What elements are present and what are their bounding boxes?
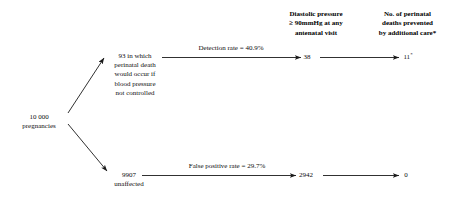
footnote-marker-asterisk: *: [410, 52, 413, 57]
edge-label-detection-rate: Detection rate = 40.9%: [176, 44, 286, 53]
column-header-deaths-prevented: No. of perinatal deaths prevented by add…: [360, 10, 455, 38]
value-deaths-prevented: 11*: [396, 53, 420, 62]
arrow-root-to-unaffected: [68, 124, 107, 171]
value-detected-cases: 38: [296, 53, 318, 62]
node-affected-perinatal-death: 93 in which perinatal death would occur …: [104, 52, 166, 98]
value-deaths-prevented-false-positive: 0: [396, 171, 416, 180]
value-false-positives: 2942: [292, 171, 320, 180]
node-root-pregnancies: 10 000 pregnancies: [8, 113, 70, 131]
node-unaffected: 9907 unaffected: [108, 171, 150, 189]
arrow-root-to-affected: [68, 58, 104, 113]
flowchart-canvas: Diastolic pressure ≥ 90mmHg at any anten…: [0, 0, 455, 202]
column-header-diastolic-pressure: Diastolic pressure ≥ 90mmHg at any anten…: [268, 10, 364, 38]
edge-label-false-positive-rate: False positive rate = 29.7%: [168, 162, 286, 171]
